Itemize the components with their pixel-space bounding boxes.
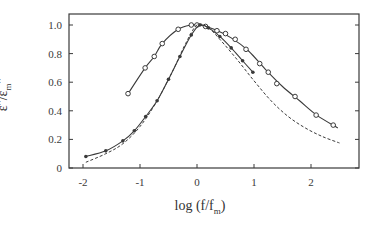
open-circle-marker (244, 47, 249, 52)
series-1 (84, 23, 255, 158)
x-title-main: log (f/f (175, 198, 214, 213)
x-title-sub: m (214, 206, 221, 216)
x-title-end: ) (221, 198, 226, 213)
filled-marker (251, 70, 255, 74)
filled-marker (229, 46, 233, 50)
data-series (84, 23, 339, 163)
x-tick-label: -2 (78, 176, 87, 188)
x-tick-label: 1 (251, 176, 257, 188)
open-circle-marker (331, 123, 336, 128)
series-line (86, 25, 253, 157)
open-circle-marker (275, 81, 280, 86)
open-circle-marker (152, 54, 157, 59)
filled-marker (84, 155, 88, 159)
chart-plot: -2-101200.20.40.60.81.0 (0, 0, 373, 227)
open-circle-marker (257, 61, 262, 66)
filled-marker (241, 59, 245, 63)
filled-marker (133, 129, 137, 133)
y-tick-label: 0 (57, 162, 63, 174)
open-circle-marker (126, 91, 131, 96)
open-circle-marker (160, 41, 165, 46)
y-tick-label: 0.2 (48, 133, 62, 145)
filled-marker (121, 139, 125, 143)
axes-box (69, 14, 359, 168)
open-circle-marker (176, 27, 181, 32)
x-tick-label: 0 (194, 176, 200, 188)
x-tick-label: 2 (308, 176, 314, 188)
y-axis-title: ε''/εm'' (10, 60, 30, 130)
open-circle-marker (293, 94, 298, 99)
y-tick-label: 0.8 (48, 48, 62, 60)
axis-ticks: -2-101200.20.40.60.81.0 (48, 19, 359, 188)
x-axis-title: log (f/fm) (150, 198, 250, 216)
y-tick-label: 0.6 (48, 76, 62, 88)
y-title-main: ε''/ε (0, 91, 10, 112)
open-circle-marker (189, 23, 194, 28)
open-circle-marker (233, 37, 238, 42)
plot-frame (69, 14, 359, 168)
y-tick-label: 1.0 (48, 19, 62, 31)
y-tick-label: 0.4 (48, 105, 62, 117)
x-tick-label: -1 (135, 176, 144, 188)
open-circle-marker (223, 31, 228, 36)
open-circle-marker (266, 70, 271, 75)
filled-marker (218, 35, 222, 39)
open-circle-marker (314, 113, 319, 118)
filled-marker (104, 149, 108, 153)
y-title-end: '' (0, 79, 10, 84)
y-title-sub: m (3, 84, 13, 91)
open-circle-marker (143, 66, 148, 71)
series-0 (126, 23, 338, 128)
